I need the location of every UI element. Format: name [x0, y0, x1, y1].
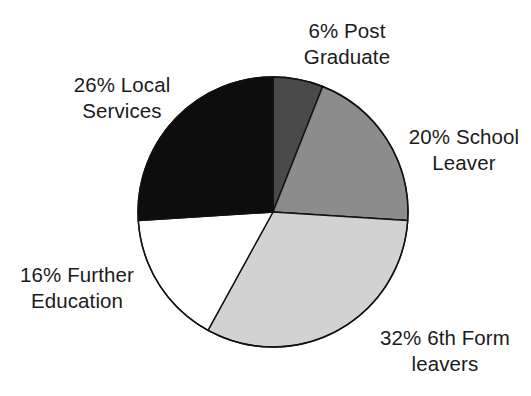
slice-label-school-leaver: 20% School Leaver [394, 124, 531, 176]
slice-label-further-education: 16% Further Education [8, 262, 146, 314]
slice-label-local-services: 26% Local Services [52, 72, 192, 124]
slice-label-post-graduate: 6% Post Graduate [262, 18, 432, 70]
pie-chart: 6% Post Graduate 20% School Leaver 32% 6… [0, 0, 531, 396]
slice-label-sixth-form-leavers: 32% 6th Form leavers [356, 325, 531, 377]
